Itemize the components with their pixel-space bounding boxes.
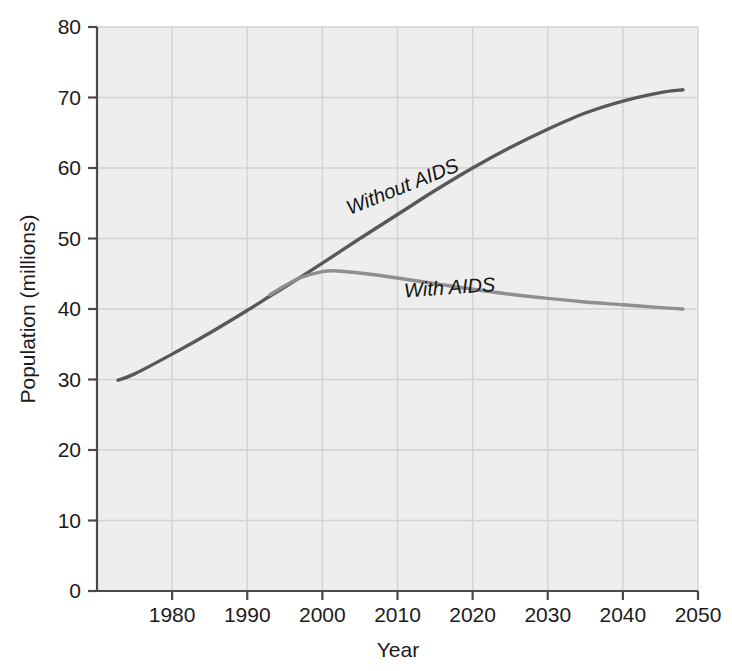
y-axis-tick-label: 30	[58, 368, 81, 391]
y-axis-tick-label: 0	[69, 579, 81, 602]
x-axis-title: Year	[377, 638, 419, 661]
x-axis-tick-label: 2050	[675, 603, 722, 626]
x-axis-tick-label: 2000	[299, 603, 346, 626]
y-axis-tick-labels: 01020304050607080	[58, 15, 81, 602]
chart-canvas: 01020304050607080 1980199020002010202020…	[0, 0, 732, 671]
x-axis-tick-label: 2040	[600, 603, 647, 626]
x-axis-tick-label: 1990	[224, 603, 271, 626]
x-axis-tick-label: 2020	[449, 603, 496, 626]
x-axis-tick-label: 2030	[524, 603, 571, 626]
x-axis-tick-labels: 19801990200020102020203020402050	[149, 603, 722, 626]
y-axis-tick-label: 50	[58, 227, 81, 250]
y-axis-ticks	[88, 27, 97, 591]
y-axis-tick-label: 10	[58, 509, 81, 532]
y-axis-tick-label: 80	[58, 15, 81, 38]
y-axis-tick-label: 40	[58, 297, 81, 320]
y-axis-tick-label: 20	[58, 438, 81, 461]
y-axis-tick-label: 60	[58, 156, 81, 179]
x-axis-tick-label: 2010	[374, 603, 421, 626]
x-axis-tick-label: 1980	[149, 603, 196, 626]
y-axis-title: Population (millions)	[16, 214, 39, 403]
population-line-chart: 01020304050607080 1980199020002010202020…	[0, 0, 732, 671]
y-axis-tick-label: 70	[58, 86, 81, 109]
x-axis-ticks	[172, 591, 698, 600]
